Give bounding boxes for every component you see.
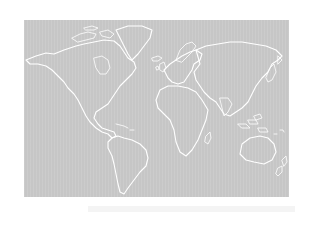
africa-outline [156, 86, 208, 156]
arctic-islands-outline [72, 26, 114, 42]
caption-strip [88, 206, 295, 212]
japan-outline [266, 56, 282, 82]
madagascar-outline [205, 132, 211, 144]
british-isles-outline [156, 62, 166, 72]
south-america-outline [108, 136, 148, 194]
scandinavia-outline [176, 42, 196, 62]
iceland-outline [152, 56, 162, 61]
new-zealand-outline [276, 156, 287, 176]
hudson-bay-outline [94, 56, 110, 74]
north-america-outline [26, 40, 136, 138]
asia-outline [194, 42, 282, 116]
caribbean-outline [116, 124, 134, 130]
europe-outline [164, 50, 202, 84]
greenland-outline [116, 26, 152, 60]
indonesia-outline [238, 114, 268, 132]
india-outline [220, 98, 232, 116]
world-map [24, 20, 289, 197]
australia-outline [240, 136, 276, 164]
pacific-islands-outline [274, 130, 284, 134]
world-map-svg [24, 20, 289, 197]
